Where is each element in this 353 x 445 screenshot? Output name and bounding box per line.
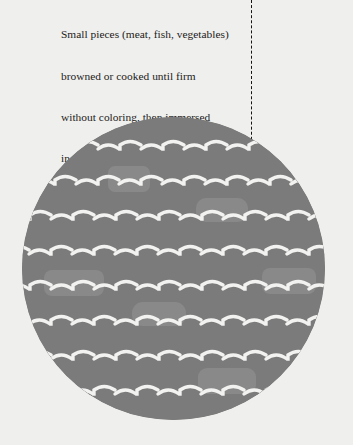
caption-line-1: Small pieces (meat, fish, vegetables) <box>61 28 251 42</box>
circular-wave-illustration <box>22 117 325 420</box>
leader-line <box>251 0 252 155</box>
caption-line-2: browned or cooked until firm <box>61 70 251 84</box>
illustration-page: Small pieces (meat, fish, vegetables) br… <box>0 0 353 445</box>
